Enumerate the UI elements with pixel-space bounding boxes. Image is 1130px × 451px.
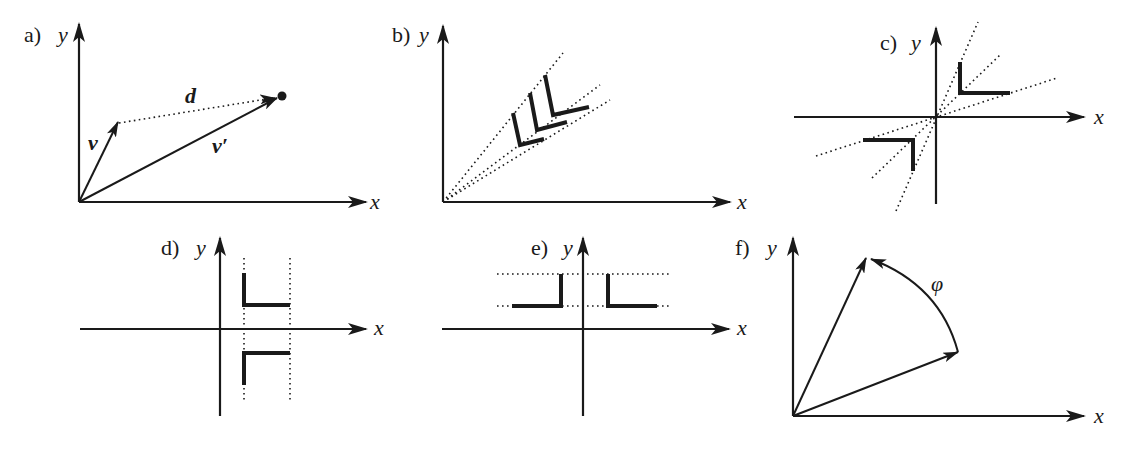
panel-e: e) y x <box>442 235 747 416</box>
l-shape-original-d <box>244 273 290 305</box>
y-axis-label-f: y <box>765 235 777 260</box>
panel-label-f: f) <box>735 235 750 260</box>
angle-label-phi: φ <box>931 271 943 296</box>
panel-label-a: a) <box>24 22 41 47</box>
geometric-transformations-figure: a) y x d v v′ b) y x c) y x <box>0 0 1130 451</box>
y-axis-label-c: y <box>909 30 921 55</box>
panel-a: a) y x d v v′ <box>24 22 380 214</box>
l-shape-large <box>545 75 589 115</box>
l-shape-original-e <box>608 274 657 306</box>
panel-label-e: e) <box>531 235 548 260</box>
panel-label-c: c) <box>880 30 897 55</box>
l-shape-mirrored-e <box>512 274 561 306</box>
panel-b: b) y x <box>392 22 747 214</box>
vector-v-prime <box>79 98 277 202</box>
x-axis-label-e: x <box>736 315 747 340</box>
l-shape-mirrored-d <box>244 353 290 385</box>
y-axis-label-a: y <box>56 22 68 47</box>
label-v: v <box>88 130 98 155</box>
panel-f: f) y x φ <box>735 235 1104 428</box>
l-shape-reflected <box>863 140 913 171</box>
y-axis-label-b: y <box>417 22 429 47</box>
x-axis-label-d: x <box>373 315 384 340</box>
panel-c: c) y x <box>794 22 1104 211</box>
rotation-arc-phi <box>871 259 958 352</box>
panel-label-b: b) <box>392 22 410 47</box>
label-v-prime: v′ <box>212 133 228 158</box>
x-axis-label-f: x <box>1093 403 1104 428</box>
target-point <box>278 92 287 101</box>
x-axis-label-b: x <box>736 189 747 214</box>
translation-d-arrowhead <box>265 98 275 99</box>
l-shape-original <box>960 62 1010 93</box>
panel-label-d: d) <box>161 235 179 260</box>
y-axis-label-e: y <box>561 235 573 260</box>
label-d: d <box>185 83 197 108</box>
x-axis-label-c: x <box>1093 104 1104 129</box>
vector-v <box>79 122 118 202</box>
scaling-ray-3 <box>443 100 610 202</box>
x-axis-label-a: x <box>369 189 380 214</box>
panel-d: d) y x <box>80 235 384 416</box>
y-axis-label-d: y <box>194 235 206 260</box>
translation-d-dotted <box>119 98 273 123</box>
